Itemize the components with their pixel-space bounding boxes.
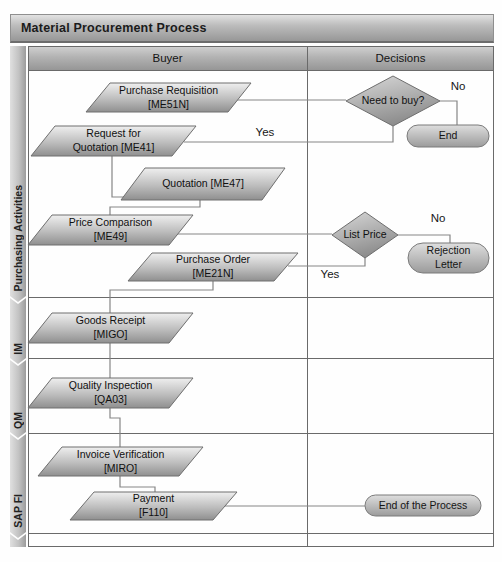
node-request-for-quotation: Request for Quotation [ME41]	[31, 126, 196, 156]
terminal-end-of-process: End of the Process	[365, 495, 481, 516]
edge-label-need-to-buy-yes: Yes	[245, 125, 285, 141]
node-purchase-order: Purchase Order [ME21N]	[128, 253, 298, 281]
node-purchase-requisition: Purchase Requisition [ME51N]	[86, 83, 251, 112]
node-invoice-verification: Invoice Verification [MIRO]	[38, 447, 203, 476]
node-quality-inspection: Quality Inspection [QA03]	[28, 378, 193, 408]
edge-label-need-to-buy-no: No	[444, 79, 472, 95]
node-payment: Payment [F110]	[70, 492, 237, 520]
node-price-comparison: Price Comparison [ME49]	[28, 215, 193, 245]
edge-label-list-price-yes: Yes	[312, 267, 348, 283]
terminal-shapes	[365, 125, 489, 516]
terminal-end: End	[407, 125, 489, 147]
decision-list-price: List Price	[332, 212, 398, 258]
material-procurement-diagram: Material Procurement Process Buyer Decis…	[0, 0, 502, 562]
edge-label-list-price-no: No	[424, 211, 452, 227]
terminal-rejection-letter: Rejection Letter	[408, 243, 489, 273]
node-quotation: Quotation [ME47]	[121, 168, 285, 200]
decision-need-to-buy: Need to buy?	[346, 76, 440, 126]
flow-connectors	[110, 100, 457, 506]
node-goods-receipt: Goods Receipt [MIGO]	[28, 313, 193, 343]
